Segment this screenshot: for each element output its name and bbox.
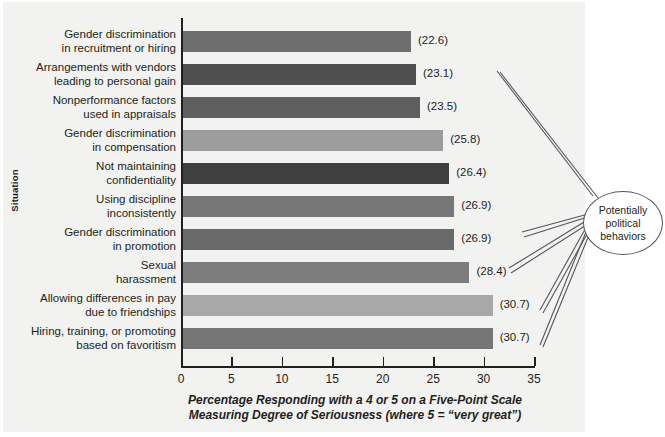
x-axis-tick-label: 10 xyxy=(262,372,302,386)
x-axis-tick xyxy=(181,357,183,366)
plot-area: 05101520253035(22.6)(23.1)(23.5)(25.8)(2… xyxy=(181,18,534,366)
bar-row: (25.8) xyxy=(181,124,534,157)
x-axis-tick xyxy=(282,357,284,366)
bar-value-label: (22.6) xyxy=(418,34,448,46)
x-axis-tick xyxy=(433,357,435,366)
x-axis-tick-label: 35 xyxy=(514,372,554,386)
bar-row: (22.6) xyxy=(181,25,534,58)
bar-row: (30.7) xyxy=(181,289,534,322)
x-axis-tick xyxy=(484,357,486,366)
bar xyxy=(183,130,443,151)
category-label-line-2: due to friendships xyxy=(0,306,176,320)
bar-row: (26.4) xyxy=(181,157,534,190)
x-axis-tick xyxy=(332,357,334,366)
category-label: Nonperformance factorsused in appraisals xyxy=(0,94,176,121)
callout-line-2: political xyxy=(605,217,640,230)
category-label-line-2: harassment xyxy=(0,273,176,287)
bar-value-label: (26.9) xyxy=(461,232,491,244)
bar-value-label: (25.8) xyxy=(450,133,480,145)
bar xyxy=(183,229,454,250)
bar xyxy=(183,262,469,283)
bar xyxy=(183,328,493,349)
bar-value-label: (23.1) xyxy=(423,67,453,79)
category-label-line-2: in promotion xyxy=(0,240,176,254)
category-label-line-2: based on favoritism xyxy=(0,339,176,353)
bar xyxy=(183,196,454,217)
x-axis-title: Percentage Responding with a 4 or 5 on a… xyxy=(120,393,590,423)
x-axis-title-line-1: Percentage Responding with a 4 or 5 on a… xyxy=(120,393,590,408)
category-label-line-1: Sexual xyxy=(0,259,176,273)
bar xyxy=(183,295,493,316)
category-label-line-1: Nonperformance factors xyxy=(0,94,176,108)
bar-row: (23.5) xyxy=(181,91,534,124)
category-label-line-1: Using discipline xyxy=(0,193,176,207)
bar xyxy=(183,31,411,52)
category-label: Arrangements with vendorsleading to pers… xyxy=(0,61,176,88)
category-label-line-1: Gender discrimination xyxy=(0,226,176,240)
category-label: Allowing differences in paydue to friend… xyxy=(0,292,176,319)
callout-line-1: Potentially xyxy=(599,204,647,217)
category-label-line-1: Gender discrimination xyxy=(0,28,176,42)
x-axis-tick-label: 30 xyxy=(464,372,504,386)
bar xyxy=(183,64,416,85)
category-label-list: Gender discriminationin recruitment or h… xyxy=(0,18,176,366)
bar-value-label: (28.4) xyxy=(476,265,506,277)
x-axis-tick xyxy=(534,357,536,366)
bar-value-label: (26.9) xyxy=(461,199,491,211)
bar xyxy=(183,163,449,184)
x-axis-tick-label: 0 xyxy=(161,372,201,386)
x-axis-tick xyxy=(383,357,385,366)
x-axis-line xyxy=(181,366,535,368)
category-label-line-2: confidentiality xyxy=(0,174,176,188)
x-axis-tick-label: 25 xyxy=(413,372,453,386)
x-axis-title-line-2: Measuring Degree of Seriousness (where 5… xyxy=(120,408,590,423)
bar xyxy=(183,97,420,118)
category-label: Hiring, training, or promotingbased on f… xyxy=(0,325,176,352)
x-axis-tick-label: 20 xyxy=(363,372,403,386)
bar-value-label: (30.7) xyxy=(500,331,530,343)
category-label-line-2: inconsistently xyxy=(0,207,176,221)
category-label-line-2: in compensation xyxy=(0,141,176,155)
x-axis-tick xyxy=(231,357,233,366)
chart-figure: Situation Gender discriminationin recrui… xyxy=(0,0,665,437)
category-label-line-1: Gender discrimination xyxy=(0,127,176,141)
bar-value-label: (23.5) xyxy=(427,100,457,112)
category-label: Gender discriminationin recruitment or h… xyxy=(0,28,176,55)
x-axis-tick-label: 15 xyxy=(312,372,352,386)
category-label: Using disciplineinconsistently xyxy=(0,193,176,220)
category-label: Gender discriminationin promotion xyxy=(0,226,176,253)
callout-bubble: Potentially political behaviors xyxy=(583,191,663,255)
category-label-line-1: Not maintaining xyxy=(0,160,176,174)
bar-row: (28.4) xyxy=(181,256,534,289)
category-label-line-1: Allowing differences in pay xyxy=(0,292,176,306)
bar-row: (30.7) xyxy=(181,322,534,355)
category-label: Gender discriminationin compensation xyxy=(0,127,176,154)
category-label-line-1: Arrangements with vendors xyxy=(0,61,176,75)
category-label-line-2: leading to personal gain xyxy=(0,75,176,89)
bar-value-label: (26.4) xyxy=(456,166,486,178)
bar-row: (26.9) xyxy=(181,190,534,223)
category-label-line-2: used in appraisals xyxy=(0,108,176,122)
callout-line-3: behaviors xyxy=(600,230,646,243)
category-label-line-2: in recruitment or hiring xyxy=(0,42,176,56)
bar-row: (23.1) xyxy=(181,58,534,91)
bar-row: (26.9) xyxy=(181,223,534,256)
category-label: Not maintainingconfidentiality xyxy=(0,160,176,187)
bar-value-label: (30.7) xyxy=(500,298,530,310)
x-axis-tick-label: 5 xyxy=(211,372,251,386)
category-label: Sexualharassment xyxy=(0,259,176,286)
category-label-line-1: Hiring, training, or promoting xyxy=(0,325,176,339)
